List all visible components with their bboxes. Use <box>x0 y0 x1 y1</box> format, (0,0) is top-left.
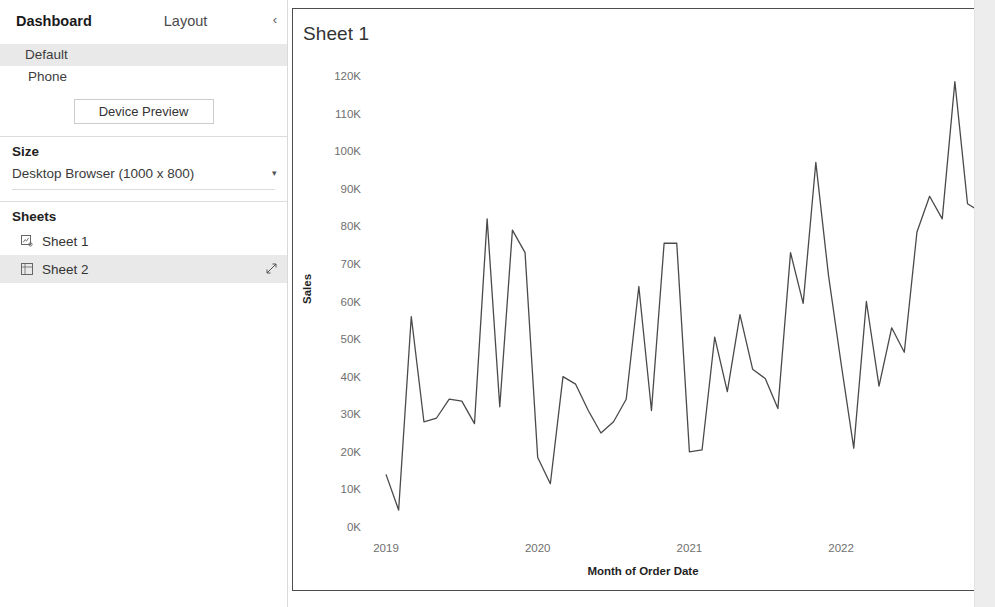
y-axis-tick-label: 70K <box>341 258 362 270</box>
y-axis-tick-group: 120K110K100K90K80K70K60K50K40K30K20K10K0… <box>334 70 361 533</box>
table-sheet-icon <box>20 263 33 276</box>
dashboard-side-panel: Dashboard Layout ‹ Default Phone Device … <box>0 0 288 607</box>
y-axis-tick-label: 10K <box>341 483 362 495</box>
y-axis-tick-label: 60K <box>341 296 362 308</box>
chart-sheet-icon <box>20 235 33 248</box>
y-axis-tick-label: 100K <box>334 145 361 157</box>
device-preview-row: Device Preview <box>0 99 287 124</box>
drag-handle-icon[interactable] <box>266 263 277 276</box>
caret-down-icon[interactable]: ▾ <box>272 168 277 178</box>
tab-layout[interactable]: Layout <box>164 13 208 29</box>
x-axis-title: Month of Order Date <box>587 565 698 577</box>
x-axis-tick-label: 2020 <box>525 542 551 554</box>
y-axis-tick-label: 40K <box>341 371 362 383</box>
device-item-label: Phone <box>28 69 67 84</box>
sheets-section-heading: Sheets <box>0 202 287 227</box>
y-axis-tick-label: 90K <box>341 183 362 195</box>
worksheet-container-sheet-1[interactable]: Sheet 1 120K110K100K90K80K70K60K50K40K30… <box>292 8 975 591</box>
dashboard-canvas: Sheet 1 120K110K100K90K80K70K60K50K40K30… <box>288 0 995 607</box>
sheet-item-label: Sheet 2 <box>42 262 266 277</box>
y-axis-tick-label: 120K <box>334 70 361 82</box>
size-dropdown-underline <box>12 189 275 190</box>
x-axis-tick-label: 2021 <box>677 542 703 554</box>
chevron-left-icon[interactable]: ‹ <box>273 13 277 27</box>
y-axis-tick-label: 30K <box>341 408 362 420</box>
y-axis-tick-label: 50K <box>341 333 362 345</box>
canvas-right-gutter[interactable] <box>974 0 995 607</box>
device-item-phone[interactable]: Phone <box>0 66 287 88</box>
sales-series-line <box>386 82 975 510</box>
device-item-label: Default <box>25 47 68 62</box>
size-section-heading: Size <box>0 137 287 162</box>
y-axis-tick-label: 110K <box>335 108 361 120</box>
x-axis-tick-group: 20192020202120222023 <box>373 542 975 554</box>
device-preview-button[interactable]: Device Preview <box>74 99 214 124</box>
sheet-item-label: Sheet 1 <box>42 234 277 249</box>
tab-dashboard[interactable]: Dashboard <box>16 13 92 29</box>
size-dropdown[interactable]: Desktop Browser (1000 x 800) ▾ <box>0 162 287 184</box>
sheet-item-sheet-1[interactable]: Sheet 1 <box>0 227 287 255</box>
y-axis-title: Sales <box>301 274 313 304</box>
tableau-dashboard-window: Dashboard Layout ‹ Default Phone Device … <box>0 0 995 607</box>
x-axis-tick-label: 2019 <box>373 542 399 554</box>
size-dropdown-value: Desktop Browser (1000 x 800) <box>12 166 272 181</box>
device-item-default[interactable]: Default <box>0 44 287 66</box>
x-axis-tick-label: 2022 <box>828 542 854 554</box>
y-axis-tick-label: 0K <box>347 521 361 533</box>
panel-tab-bar: Dashboard Layout ‹ <box>0 0 287 42</box>
sheet-item-sheet-2[interactable]: Sheet 2 <box>0 255 287 283</box>
sales-line-chart[interactable]: 120K110K100K90K80K70K60K50K40K30K20K10K0… <box>293 9 975 591</box>
y-axis-tick-label: 80K <box>341 220 362 232</box>
y-axis-tick-label: 20K <box>341 446 362 458</box>
device-layout-list: Default Phone <box>0 42 287 88</box>
